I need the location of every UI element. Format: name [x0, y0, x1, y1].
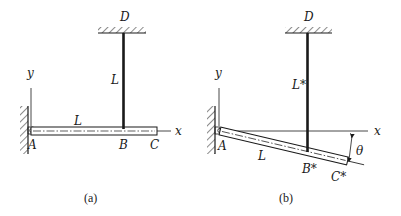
panel-a: D L y L x A B C (a) [20, 10, 182, 205]
beam-ac-rotated [219, 127, 365, 169]
ceiling-support-d-b-icon [285, 27, 332, 33]
label-a-b: A [217, 139, 227, 153]
label-x-axis: x [175, 124, 182, 138]
label-y-axis-b: y [214, 66, 222, 80]
caption-a: (a) [84, 191, 97, 205]
wall-support-b-icon [207, 106, 215, 154]
angle-theta-arrow-icon [349, 136, 352, 160]
label-beam-length: L [73, 114, 82, 128]
panel-b: D L* y x A L B* C* θ (b) [207, 10, 381, 205]
label-a: A [27, 138, 37, 152]
wall-support-a-icon [20, 106, 28, 154]
label-b-star: B* [301, 162, 317, 176]
diagram-canvas: D L y L x A B C (a) [0, 0, 401, 216]
ceiling-support-d-icon [98, 27, 146, 33]
label-b: B [118, 138, 128, 152]
label-y-axis: y [26, 66, 34, 80]
label-d: D [119, 10, 130, 24]
caption-b: (b) [279, 191, 293, 205]
label-x-axis-b: x [374, 124, 381, 138]
label-c: C [150, 138, 159, 152]
label-beam-length-b: L [257, 149, 266, 163]
label-rod-length: L [110, 73, 119, 87]
label-d-b: D [303, 10, 314, 24]
label-rod-length-b: L* [291, 78, 306, 92]
label-c-star: C* [331, 170, 346, 184]
label-theta: θ [356, 144, 364, 158]
beam-ac [31, 127, 157, 135]
